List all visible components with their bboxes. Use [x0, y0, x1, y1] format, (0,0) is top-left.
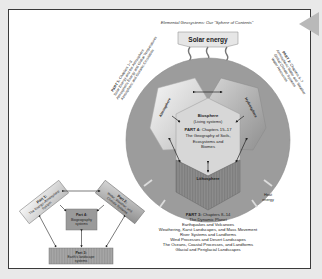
mini-part1-box: Part 1: The Energy–Atmosphere System [19, 180, 68, 223]
solar-energy-label: Solar energy [188, 36, 228, 44]
part4-inner-heading: PART 4: Chapters 15–17 [185, 127, 233, 132]
sphere-of-contents-diagram: Elemental Geosystems: Our "Sphere of Con… [0, 0, 322, 279]
mini-part4-label: Part 4: [76, 213, 87, 217]
svg-text:systems: systems [75, 222, 88, 226]
biosphere-label: Biosphere [198, 113, 219, 118]
part4-inner-line: Biomes [201, 144, 215, 149]
mini-systems-diagram: Part 1: The Energy–Atmosphere System Par… [19, 180, 144, 264]
part4-inner-line: Ecosystems and [193, 139, 224, 144]
part3-caption: PART 3: Chapters 8–14 The Dynamic Planet… [159, 212, 258, 252]
svg-text:Glacial and Periglacial Landsc: Glacial and Periglacial Landscapes [175, 247, 240, 252]
part4-inner-line: The Geography of Soils, [185, 133, 230, 138]
solar-energy-box: Solar energy [178, 32, 238, 47]
svg-text:systems: systems [75, 259, 88, 263]
mini-part2-box: Part 2: Water, Weather, and Climate Syst… [95, 180, 144, 223]
svg-text:Biogeography: Biogeography [71, 218, 92, 222]
heat-energy-label: Heat [264, 193, 273, 197]
diagram-title: Elemental Geosystems: Our "Sphere of Con… [161, 20, 254, 25]
biosphere-sublabel: (Living systems) [194, 119, 224, 124]
heat-energy-label: energy [262, 198, 274, 202]
lithosphere-label: Lithosphere [197, 176, 221, 181]
